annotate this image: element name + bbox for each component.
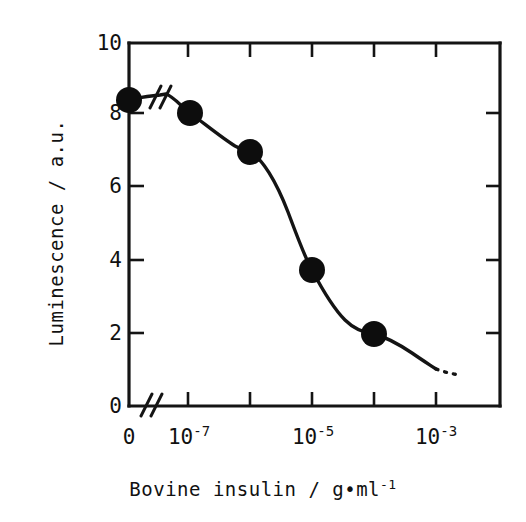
y-tick-label-0: 0	[78, 394, 122, 418]
data-curve-dashed-tail	[436, 369, 460, 375]
x-tick-label-1e-3: 10-3	[405, 425, 467, 449]
x-axis-ticks-bottom	[188, 392, 436, 406]
data-point	[237, 139, 263, 165]
y-axis-ticks	[129, 113, 144, 333]
data-curve	[129, 94, 436, 369]
x-axis-title: Bovine insulin / g•ml-1	[0, 478, 526, 500]
y-tick-label-6: 6	[78, 174, 122, 198]
x-tick-label-1e-7: 10-7	[158, 425, 220, 449]
x-tick-exponent: -3	[440, 423, 457, 439]
x-tick-exponent: -5	[317, 423, 334, 439]
chart-figure: 10 8 6 4 2 0 0 10-7 10-5 10-3 Luminescen…	[0, 0, 526, 522]
data-point	[361, 321, 387, 347]
x-tick-base-text: 10	[292, 425, 317, 449]
data-point	[299, 257, 325, 283]
x-tick-label-zero: 0	[109, 425, 149, 449]
y-axis-title: Luminescence / a.u.	[45, 93, 67, 373]
x-tick-zero-text: 0	[123, 425, 136, 449]
y-axis-ticks-right	[486, 113, 500, 333]
x-tick-base-text: 10	[168, 425, 193, 449]
x-tick-label-1e-5: 10-5	[282, 425, 344, 449]
y-tick-label-8: 8	[78, 101, 122, 125]
x-axis-title-text: Bovine insulin / g•ml	[129, 478, 380, 500]
x-tick-base-text: 10	[415, 425, 440, 449]
x-axis-ticks-top	[188, 43, 436, 57]
y-tick-label-4: 4	[78, 248, 122, 272]
x-axis-title-exponent: -1	[380, 477, 397, 492]
data-points	[116, 87, 387, 347]
data-point	[177, 100, 203, 126]
y-tick-label-10: 10	[78, 31, 122, 55]
y-tick-label-2: 2	[78, 321, 122, 345]
axis-frame	[129, 43, 500, 406]
x-tick-exponent: -7	[193, 423, 210, 439]
